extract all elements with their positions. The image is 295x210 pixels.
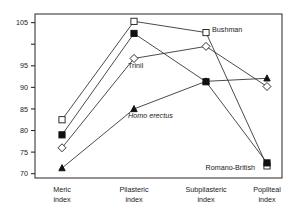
y-tick-label-70: 70	[20, 169, 28, 178]
marker-bushman-1	[131, 18, 137, 24]
y-tick-label-85: 85	[20, 105, 28, 114]
marker-bushman-0	[59, 117, 65, 123]
x-label-2-line-0: Subpilasteric	[185, 185, 227, 194]
annotation-trinil: Trinil	[128, 61, 144, 70]
chart-container: 707580859095105 BushmanTrinilHomo erectu…	[0, 0, 295, 210]
marker-bushman-2	[203, 29, 209, 35]
marker-romano-british-0	[59, 132, 65, 138]
y-tick-label-80: 80	[20, 126, 28, 135]
annotation-romano-british: Romano-British	[205, 163, 255, 172]
y-tick-label-90: 90	[20, 83, 28, 92]
x-label-2-line-1: index	[197, 195, 215, 204]
annotation-bushman: Bushman	[212, 25, 242, 34]
x-label-0-line-1: index	[53, 195, 71, 204]
annotation-homo-erectus: Homo erectus	[128, 111, 173, 120]
x-label-1-line-0: Pilasteric	[119, 185, 149, 194]
marker-romano-british-1	[131, 30, 137, 36]
x-label-3-line-1: index	[258, 195, 276, 204]
marker-romano-british-3	[264, 160, 270, 166]
x-label-0-line-0: Meric	[53, 185, 71, 194]
y-tick-label-105: 105	[16, 18, 28, 27]
line-chart: 707580859095105 BushmanTrinilHomo erectu…	[0, 0, 295, 210]
y-tick-label-95: 95	[20, 61, 28, 70]
x-label-1-line-1: index	[125, 195, 143, 204]
y-tick-label-75: 75	[20, 148, 28, 157]
x-label-3-line-0: Popliteal	[253, 185, 281, 194]
